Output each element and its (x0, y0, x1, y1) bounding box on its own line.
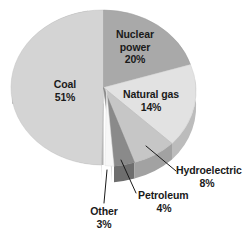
pie-chart-graphic (0, 0, 248, 242)
slice-label-petroleum-name: Petroleum (138, 189, 190, 202)
pie-top-face (11, 10, 196, 166)
slice-label-other-percent: 3% (84, 218, 124, 231)
pie-chart: Coal 51% Nuclear power 20% Natural gas 1… (0, 0, 248, 242)
slice-label-hydroelectric: Hydroelectric 8% (176, 164, 242, 189)
slice-label-petroleum-percent: 4% (138, 202, 190, 215)
slice-label-other: Other 3% (84, 205, 124, 230)
slice-label-hydroelectric-percent: 8% (176, 177, 238, 190)
slice-label-petroleum: Petroleum 4% (138, 189, 190, 214)
leader-line-other (104, 170, 107, 203)
slice-coal (11, 10, 104, 165)
slice-label-hydroelectric-name: Hydroelectric (176, 164, 242, 177)
slice-label-other-name: Other (84, 205, 124, 218)
